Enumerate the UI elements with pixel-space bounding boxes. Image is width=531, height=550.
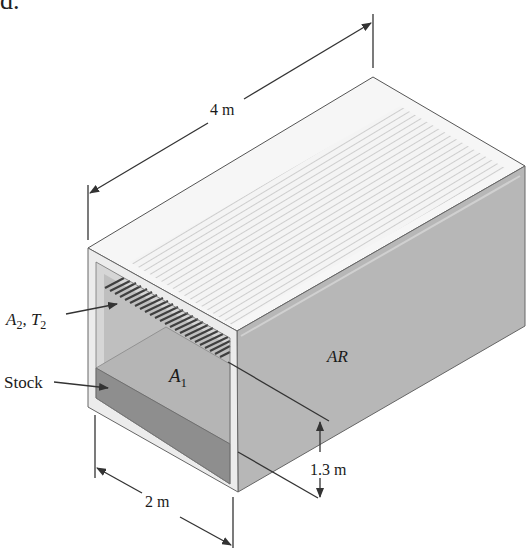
width-label: 2 m (145, 493, 170, 510)
svg-text:Stock: Stock (4, 373, 43, 392)
svg-text:A2, T2: A2, T2 (5, 310, 46, 332)
furnace-box-diagram: 4 m 2 m 1.3 m A2, T2 Stock A1 AR (0, 0, 531, 550)
height-label: 1.3 m (310, 461, 347, 478)
refractory-wall-label: AR (326, 347, 348, 366)
length-label: 4 m (210, 101, 235, 118)
